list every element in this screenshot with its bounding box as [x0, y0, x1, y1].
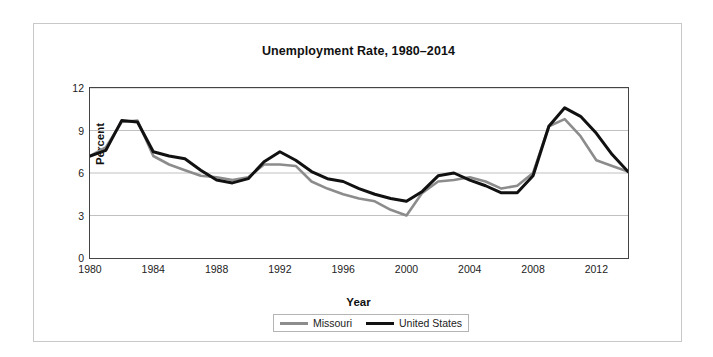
- legend-entry-united-states: United States: [366, 317, 462, 329]
- plot-svg: [90, 88, 628, 258]
- chart-screenshot: Unemployment Rate, 1980–2014 Percent 036…: [0, 0, 713, 357]
- x-tick-label-2004: 2004: [458, 263, 481, 275]
- x-tick-label-2000: 2000: [395, 263, 418, 275]
- y-tick-label-12: 12: [72, 82, 84, 94]
- x-tick-label-1988: 1988: [205, 263, 228, 275]
- y-tick-label-9: 9: [78, 125, 84, 137]
- chart-legend: Missouri United States: [273, 314, 469, 332]
- x-tick-label-1996: 1996: [331, 263, 354, 275]
- figure-frame: Unemployment Rate, 1980–2014 Percent 036…: [33, 23, 682, 342]
- series-line-united-states: [90, 108, 628, 202]
- x-axis-label: Year: [34, 296, 683, 308]
- legend-line-swatch-united-states: [366, 322, 394, 325]
- x-tick-label-1992: 1992: [268, 263, 291, 275]
- legend-label-united-states: United States: [399, 317, 462, 329]
- chart-title: Unemployment Rate, 1980–2014: [34, 44, 683, 58]
- plot-area: Percent 03691219801984198819921996200020…: [89, 87, 629, 259]
- x-tick-label-1984: 1984: [142, 263, 165, 275]
- y-tick-label-3: 3: [78, 210, 84, 222]
- x-tick-label-1980: 1980: [78, 263, 101, 275]
- legend-entry-missouri: Missouri: [280, 317, 352, 329]
- legend-line-swatch-missouri: [280, 322, 308, 325]
- legend-label-missouri: Missouri: [313, 317, 352, 329]
- x-tick-label-2012: 2012: [585, 263, 608, 275]
- y-tick-label-6: 6: [78, 167, 84, 179]
- x-tick-label-2008: 2008: [521, 263, 544, 275]
